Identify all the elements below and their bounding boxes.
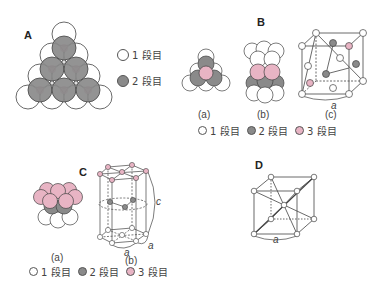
legend-item-layer1: 1 段目 xyxy=(117,47,162,62)
panel-b-c-fcc-unit-cell xyxy=(300,28,380,108)
legend-text: 2 段目 xyxy=(132,73,162,88)
legend-item-layer2: 2 段目 xyxy=(78,264,120,279)
panel-c-a-hcp-stacking xyxy=(36,183,81,228)
legend-text: 2 段目 xyxy=(90,264,120,279)
panel-a-legend: 1 段目 2 段目 xyxy=(117,47,162,99)
panel-d-bcc-unit-cell xyxy=(252,175,327,250)
panel-b-b-side-stacking xyxy=(242,43,292,103)
legend-text: 3 段目 xyxy=(307,123,337,138)
panel-c-b-hcp-unit-cell xyxy=(96,162,166,257)
panel-a-close-packed-layers xyxy=(14,22,134,102)
panel-c-label: C xyxy=(79,166,87,178)
white-circle-icon xyxy=(117,49,129,61)
legend-text: 1 段目 xyxy=(41,264,71,279)
legend-text: 3 段目 xyxy=(138,264,168,279)
legend-text: 2 段目 xyxy=(259,123,289,138)
legend-item-layer3: 3 段目 xyxy=(126,264,168,279)
panel-d-label: D xyxy=(255,159,263,171)
legend-item-layer3: 3 段目 xyxy=(295,123,337,138)
legend-text: 1 段目 xyxy=(210,123,240,138)
panel-b-sublabel-a: (a) xyxy=(198,109,210,120)
panel-c-lattice-c: c xyxy=(156,196,161,207)
legend-item-layer2: 2 段目 xyxy=(247,123,289,138)
white-circle-icon xyxy=(198,126,207,135)
panel-c-lattice-a2: a xyxy=(148,240,154,251)
legend-item-layer1: 1 段目 xyxy=(29,264,71,279)
panel-b-sublabel-b: (b) xyxy=(257,109,269,120)
panel-c-legend: 1 段目 2 段目 3 段目 xyxy=(29,264,175,279)
panel-d-lattice-a: a xyxy=(273,234,279,245)
pink-circle-icon xyxy=(126,267,135,276)
panel-c-sublabel-a: (a) xyxy=(51,252,63,263)
legend-text: 1 段目 xyxy=(132,47,162,62)
gray-circle-icon xyxy=(117,75,129,87)
legend-item-layer2: 2 段目 xyxy=(117,73,162,88)
legend-item-layer1: 1 段目 xyxy=(198,123,240,138)
white-circle-icon xyxy=(29,267,38,276)
gray-circle-icon xyxy=(78,267,87,276)
panel-b-label: B xyxy=(257,16,265,28)
panel-b-sublabel-c: (c) xyxy=(325,109,337,120)
panel-b-legend: 1 段目 2 段目 3 段目 xyxy=(198,123,344,138)
pink-circle-icon xyxy=(295,126,304,135)
panel-b-a-abc-stacking xyxy=(184,47,229,92)
gray-circle-icon xyxy=(247,126,256,135)
